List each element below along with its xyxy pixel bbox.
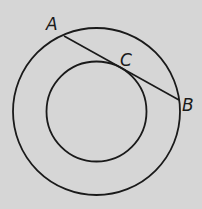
- point-label-b: B: [182, 97, 194, 114]
- outer-circle: [13, 28, 180, 195]
- concentric-circles-diagram: [0, 0, 202, 209]
- point-label-a: A: [46, 16, 58, 33]
- point-label-c: C: [120, 52, 132, 69]
- inner-circle: [47, 62, 147, 162]
